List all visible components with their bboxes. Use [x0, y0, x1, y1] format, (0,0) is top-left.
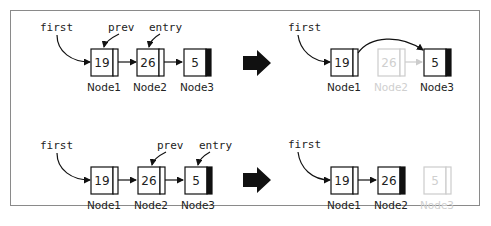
pointer-label-entry: entry: [199, 139, 232, 152]
pointer-label-entry: entry: [149, 21, 182, 34]
row2-before: first prev entry 19 Node1 26 Node2: [40, 139, 232, 211]
node-box: 26 Node2: [134, 167, 168, 211]
pointer-arrow-entry: [198, 152, 210, 165]
pointer-label-first: first: [288, 138, 321, 151]
row2-after: first 19 Node1 26 Node2 5 Node3: [288, 138, 454, 211]
row1-after: first 19 Node1 26 Node2 5 N: [288, 21, 454, 93]
node-value: 5: [431, 174, 439, 188]
row1-before: first prev entry 19 Node1 26 Node2: [40, 21, 214, 93]
node-value: 26: [381, 56, 396, 70]
pointer-label-prev: prev: [157, 139, 184, 152]
linked-list-diagram: first prev entry 19 Node1 26 Node2: [0, 0, 491, 226]
pointer-arrow-prev: [152, 152, 166, 165]
node-label: Node2: [133, 81, 167, 93]
node-label: Node3: [420, 199, 454, 211]
right-arrow-icon: [243, 50, 271, 76]
node-value: 19: [334, 56, 349, 70]
pointer-arrow-first: [298, 152, 330, 180]
right-arrow-icon: [243, 167, 271, 193]
pointer-label-first: first: [40, 139, 73, 152]
node-label: Node2: [374, 81, 408, 93]
node-box-removed: 26 Node2: [374, 49, 408, 93]
pointer-arrow-entry: [149, 34, 160, 47]
pointer-arrow-first: [57, 35, 90, 62]
node-label: Node2: [374, 199, 408, 211]
node-box: 19 Node1: [327, 167, 361, 211]
pointer-arrow-first: [57, 153, 90, 180]
node-value: 19: [94, 174, 109, 188]
node-label: Node1: [87, 81, 121, 93]
pointer-label-first: first: [288, 21, 321, 34]
node-label: Node3: [180, 81, 214, 93]
node-box: 5 Node3: [420, 49, 454, 93]
pointer-arrow-first: [298, 35, 330, 62]
node-box: 19 Node1: [87, 167, 121, 211]
node-value: 26: [140, 56, 155, 70]
node-box: 5 Node3: [180, 49, 214, 93]
node-box: 26 Node2: [133, 49, 167, 93]
node-value: 26: [141, 174, 156, 188]
node-label: Node3: [181, 199, 215, 211]
pointer-arrow-prev: [104, 34, 119, 47]
node-label: Node1: [327, 81, 361, 93]
node-label: Node2: [134, 199, 168, 211]
node-value: 5: [191, 56, 199, 70]
pointer-label-first: first: [40, 21, 73, 34]
node-value: 19: [334, 174, 349, 188]
node-box: 19 Node1: [87, 49, 121, 93]
diagram-canvas: first prev entry 19 Node1 26 Node2: [0, 0, 491, 226]
node-box-removed: 5 Node3: [420, 167, 454, 211]
pointer-label-prev: prev: [108, 21, 135, 34]
node-value: 5: [431, 56, 439, 70]
node-label: Node3: [420, 81, 454, 93]
node-value: 5: [192, 174, 200, 188]
node-box: 5 Node3: [181, 167, 215, 211]
node-label: Node1: [327, 199, 361, 211]
node-box: 19 Node1: [327, 49, 361, 93]
node-label: Node1: [87, 199, 121, 211]
node-value: 19: [94, 56, 109, 70]
node-box: 26 Node2: [374, 167, 408, 211]
node-value: 26: [381, 174, 396, 188]
